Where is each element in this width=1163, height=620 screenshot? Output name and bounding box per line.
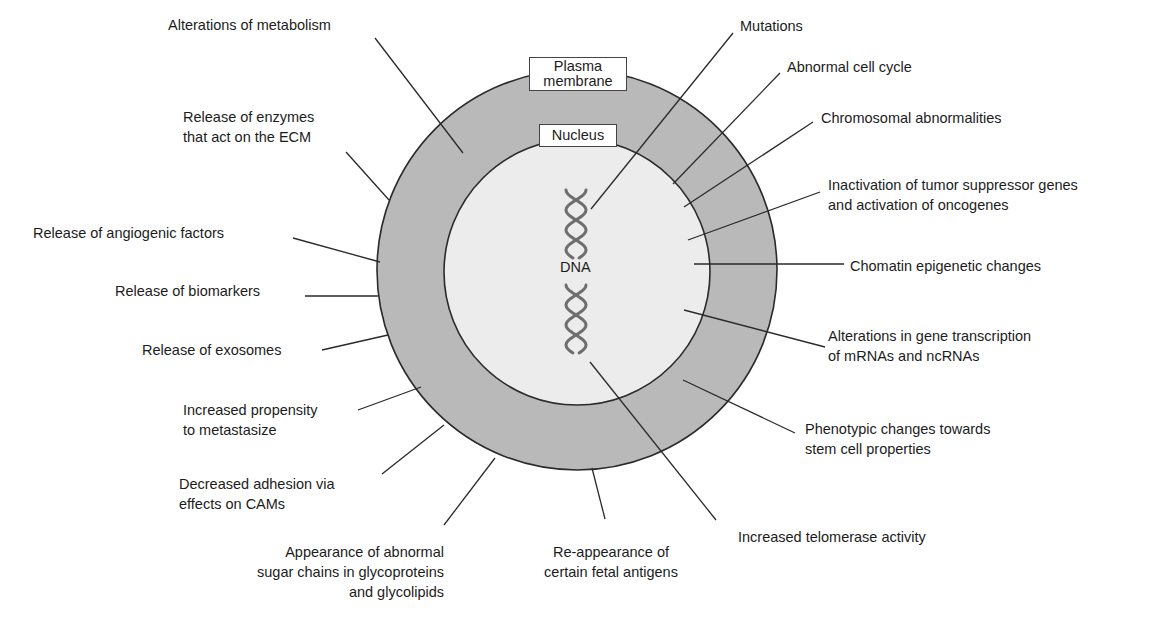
leader-line-alterations-metabolism: [375, 38, 463, 153]
label-line: Release of angiogenic factors: [33, 223, 224, 243]
leader-line-increased-propensity-metastasize: [358, 387, 421, 410]
label-alterations-metabolism: Alterations of metabolism: [168, 15, 331, 35]
label-release-enzymes-ecm: Release of enzymesthat act on the ECM: [183, 107, 314, 147]
label-mutations: Mutations: [740, 16, 803, 36]
label-line: of mRNAs and ncRNAs: [828, 346, 1031, 366]
label-line: Inactivation of tumor suppressor genes: [828, 175, 1078, 195]
label-line: certain fetal antigens: [544, 562, 678, 582]
nucleus-label-text: Nucleus: [552, 127, 604, 143]
label-tumor-suppressor-oncogenes: Inactivation of tumor suppressor genesan…: [828, 175, 1078, 215]
nucleus-label: Nucleus: [539, 124, 617, 147]
label-line: effects on CAMs: [179, 494, 335, 514]
label-line: Release of biomarkers: [115, 281, 260, 301]
label-line: Alterations in gene transcription: [828, 326, 1031, 346]
label-line: Increased propensity: [183, 400, 318, 420]
label-line: Release of enzymes: [183, 107, 314, 127]
label-abnormal-cell-cycle: Abnormal cell cycle: [787, 57, 912, 77]
label-line: that act on the ECM: [183, 127, 314, 147]
label-line: Mutations: [740, 16, 803, 36]
label-line: to metastasize: [183, 420, 318, 440]
leader-line-release-exosomes: [322, 335, 388, 350]
label-line: Appearance of abnormal: [257, 542, 444, 562]
leader-line-fetal-antigens: [592, 468, 605, 519]
plasma-membrane-label-line2: membrane: [534, 74, 622, 89]
label-increased-propensity-metastasize: Increased propensityto metastasize: [183, 400, 318, 440]
label-fetal-antigens: Re-appearance ofcertain fetal antigens: [544, 542, 678, 582]
label-line: Alterations of metabolism: [168, 15, 331, 35]
label-line: Chromosomal abnormalities: [821, 108, 1002, 128]
label-decreased-adhesion-cams: Decreased adhesion viaeffects on CAMs: [179, 474, 335, 514]
label-release-exosomes: Release of exosomes: [142, 340, 281, 360]
label-chromatin-epigenetic: Chomatin epigenetic changes: [850, 256, 1041, 276]
leader-line-abnormal-sugar-chains: [444, 458, 495, 525]
leader-line-release-angiogenic-factors: [293, 238, 380, 262]
plasma-membrane-label-line1: Plasma: [534, 59, 622, 74]
label-line: Increased telomerase activity: [738, 527, 926, 547]
label-line: Re-appearance of: [544, 542, 678, 562]
label-release-angiogenic-factors: Release of angiogenic factors: [33, 223, 224, 243]
plasma-membrane-label: Plasma membrane: [529, 57, 627, 91]
cancer-cell-diagram: Plasma membrane Nucleus DNA Alterations …: [0, 0, 1163, 620]
label-line: sugar chains in glycoproteins: [257, 562, 444, 582]
label-line: Phenotypic changes towards: [805, 419, 990, 439]
leader-line-release-enzymes-ecm: [346, 152, 389, 200]
label-line: Abnormal cell cycle: [787, 57, 912, 77]
label-line: Release of exosomes: [142, 340, 281, 360]
label-alterations-gene-transcription: Alterations in gene transcriptionof mRNA…: [828, 326, 1031, 366]
dna-label: DNA: [560, 259, 591, 275]
label-phenotypic-stem-cell: Phenotypic changes towardsstem cell prop…: [805, 419, 990, 459]
label-line: and activation of oncogenes: [828, 195, 1078, 215]
label-increased-telomerase: Increased telomerase activity: [738, 527, 926, 547]
leader-line-decreased-adhesion-cams: [382, 425, 444, 474]
label-chromosomal-abnormalities: Chromosomal abnormalities: [821, 108, 1002, 128]
label-line: stem cell properties: [805, 439, 990, 459]
label-abnormal-sugar-chains: Appearance of abnormalsugar chains in gl…: [257, 542, 444, 602]
cell-illustration: [0, 0, 1163, 620]
label-line: and glycolipids: [257, 582, 444, 602]
label-line: Decreased adhesion via: [179, 474, 335, 494]
label-line: Chomatin epigenetic changes: [850, 256, 1041, 276]
label-release-biomarkers: Release of biomarkers: [115, 281, 260, 301]
